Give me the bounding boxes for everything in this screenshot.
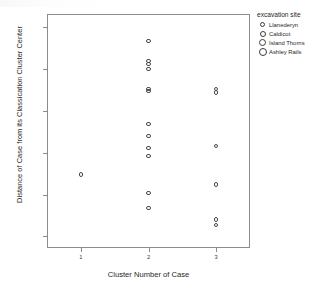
y-tick-mark [43,153,47,154]
plot-area [47,14,250,248]
legend-marker-icon [257,48,268,56]
data-point [146,134,150,138]
data-point [214,223,218,227]
data-point [146,122,150,126]
data-point [214,90,218,94]
legend-item-label: Ashley Rails [269,49,301,55]
y-tick-mark [43,236,47,237]
legend-item-label: Island Thorns [269,40,305,46]
x-axis-title: Cluster Number of Case [47,270,250,279]
legend-item[interactable]: Island Thorns [257,39,317,48]
x-tick-label: 1 [75,254,87,260]
legend-title: excavation site [257,11,317,18]
y-tick-mark [43,195,47,196]
legend-item[interactable]: Ashley Rails [257,48,317,57]
legend-marker-icon [257,22,268,27]
legend-items: LlanederynCaldicotIsland ThornsAshley Ra… [257,21,317,57]
data-point [146,67,150,71]
data-point [146,62,150,66]
data-point [146,206,150,210]
x-tick-label: 2 [143,254,155,260]
data-point [214,217,218,221]
data-point [146,154,150,158]
x-tick-label: 3 [210,254,222,260]
x-tick-mark [216,248,217,252]
legend: excavation site LlanederynCaldicotIsland… [257,11,317,57]
legend-item-label: Caldicot [269,31,290,37]
data-point [146,89,150,93]
legend-marker-icon [257,31,268,37]
y-axis-title: Distance of Case from its Classication C… [15,0,24,230]
y-tick-mark [43,27,47,28]
legend-item[interactable]: Llanederyn [257,21,317,30]
legend-item-label: Llanederyn [269,22,298,28]
x-tick-mark [149,248,150,252]
legend-item[interactable]: Caldicot [257,30,317,39]
data-point [146,39,150,43]
data-point [146,146,150,150]
y-tick-mark [43,111,47,112]
y-tick-mark [43,69,47,70]
x-tick-mark [81,248,82,252]
legend-marker-icon [257,39,268,46]
data-point [79,172,83,176]
scatter-plot-chart: Distance of Case from its Classication C… [0,0,319,291]
data-point [146,191,150,195]
data-point [214,182,218,186]
